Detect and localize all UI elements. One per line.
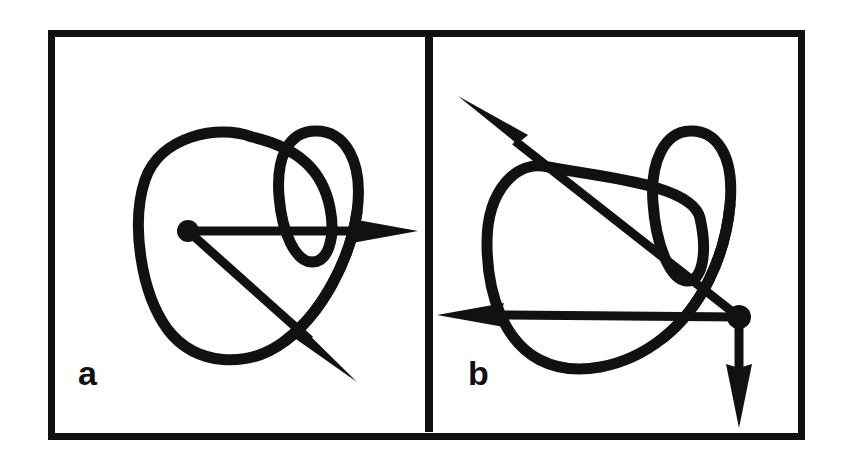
figure-background [0,0,844,470]
panel-label-a: a [78,354,98,392]
base-point-a [177,220,199,242]
panel-label-b: b [468,354,489,392]
panel-divider [425,33,433,432]
arrow-b-horizontal-shaft [500,315,739,317]
base-point-b [727,305,751,329]
figure-root: a b [0,0,844,470]
figure-canvas: a b [0,0,844,470]
